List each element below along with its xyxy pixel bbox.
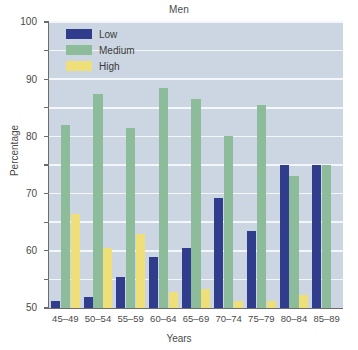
y-axis-tick-label: 100: [20, 16, 37, 27]
bar-high: [234, 301, 243, 308]
bar-low: [149, 257, 158, 308]
legend-item-high: High: [66, 58, 166, 74]
y-axis-tick-label: 70: [26, 187, 37, 198]
y-axis-tick-label: 90: [26, 73, 37, 84]
x-axis-tick-label: 85–89: [313, 313, 339, 324]
bar-medium: [289, 176, 298, 308]
bar-medium: [191, 99, 200, 308]
bar-group: 75–79: [245, 22, 278, 308]
bar-low: [51, 301, 60, 308]
bar-low: [116, 277, 125, 308]
bar-low: [214, 198, 223, 308]
y-axis-tick-label: 50: [26, 302, 37, 313]
y-axis-tick-label: 60: [26, 245, 37, 256]
x-axis-tick-label: 60–64: [150, 313, 176, 324]
bar-high: [136, 234, 145, 308]
legend-item-low: Low: [66, 26, 166, 42]
bar-high: [169, 292, 178, 308]
bar-medium: [224, 136, 233, 308]
x-axis-tick-label: 75–79: [248, 313, 274, 324]
bar-low: [182, 248, 191, 308]
bar-medium: [322, 165, 331, 308]
x-axis-tick-label: 45–49: [52, 313, 78, 324]
bar-high: [299, 295, 308, 308]
bar-medium: [257, 105, 266, 308]
bar-high: [71, 214, 80, 308]
bar-high: [201, 289, 210, 308]
legend-label: Medium: [99, 45, 135, 56]
bar-low: [312, 165, 321, 308]
legend-swatch-icon: [66, 45, 92, 55]
x-axis-tick-label: 50–54: [85, 313, 111, 324]
legend-item-medium: Medium: [66, 42, 166, 58]
chart-legend: LowMediumHigh: [66, 26, 166, 74]
x-axis-tick-label: 70–74: [215, 313, 241, 324]
bar-high: [267, 301, 276, 308]
bar-low: [84, 297, 93, 308]
bar-low: [280, 165, 289, 308]
legend-swatch-icon: [66, 61, 92, 71]
bar-group: 80–84: [278, 22, 311, 308]
x-axis-label: Years: [0, 333, 358, 344]
legend-label: High: [99, 61, 120, 72]
bar-medium: [93, 94, 102, 309]
y-axis-label: Percentage: [9, 116, 20, 186]
y-axis-tick-label: 80: [26, 130, 37, 141]
bar-group: 70–74: [212, 22, 245, 308]
bar-high: [103, 248, 112, 308]
bar-group: 65–69: [180, 22, 213, 308]
bar-low: [247, 231, 256, 308]
legend-label: Low: [99, 29, 117, 40]
legend-swatch-icon: [66, 29, 92, 39]
x-axis-tick-label: 65–69: [183, 313, 209, 324]
chart-figure: Men Percentage Years 0102030405060708090…: [0, 0, 358, 350]
chart-title: Men: [0, 4, 358, 15]
bar-medium: [61, 125, 70, 308]
x-axis-tick-label: 80–84: [281, 313, 307, 324]
x-axis-tick-label: 55–59: [117, 313, 143, 324]
bar-medium: [159, 88, 168, 308]
bar-group: 85–89: [310, 22, 343, 308]
bar-medium: [126, 128, 135, 308]
